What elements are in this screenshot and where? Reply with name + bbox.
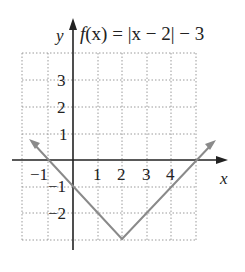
title-rest: − 3 [174, 23, 204, 44]
y-tick-neg2: −2 [48, 205, 66, 222]
x-tick-4: 4 [166, 166, 175, 183]
x-axis-label: x [220, 170, 228, 187]
x-axis-arrow-icon [216, 156, 228, 164]
title-abs: |x − 2| [128, 23, 175, 44]
y-tick-neg1: −1 [48, 178, 66, 195]
x-tick-3: 3 [142, 166, 151, 183]
x-tick-2: 2 [117, 166, 126, 183]
y-axis-label: y [56, 27, 64, 44]
axes [12, 24, 222, 250]
y-axis-arrow-icon [69, 18, 77, 30]
y-tick-3: 3 [57, 72, 66, 89]
title-arg: (x) = [85, 23, 127, 44]
x-tick-1: 1 [93, 166, 102, 183]
y-tick-1: 1 [59, 126, 68, 143]
chart-title: f(x) = |x − 2| − 3 [80, 23, 204, 45]
x-tick-neg1: −1 [30, 166, 48, 183]
y-tick-2: 2 [57, 99, 66, 116]
